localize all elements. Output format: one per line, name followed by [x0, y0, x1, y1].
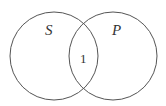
set-s-label: S: [45, 22, 53, 38]
set-p-label: P: [111, 22, 121, 38]
intersection-label: 1: [80, 51, 87, 66]
venn-diagram: S P 1: [0, 0, 166, 106]
